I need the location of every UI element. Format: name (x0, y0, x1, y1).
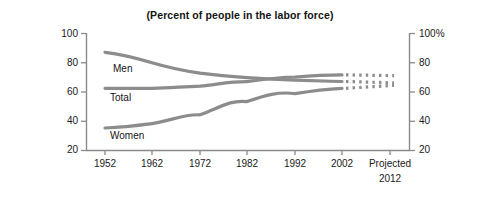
y-axis-left-tick-40: 40 (52, 115, 78, 126)
y-axis-right-tick-80: 80 (419, 57, 453, 68)
series-label-women: Women (110, 130, 144, 141)
chart-figure: (Percent of people in the labor force) (0, 0, 480, 197)
y-axis-left-tick-100: 100 (52, 28, 78, 39)
y-axis-left-tick-20: 20 (52, 144, 78, 155)
y-axis-right-tick-20: 20 (419, 144, 453, 155)
x-axis-tick-projected: Projected (360, 158, 420, 169)
series-label-total: Total (110, 92, 131, 103)
series-women (105, 85, 394, 128)
y-axis-right-tick-60: 60 (419, 86, 453, 97)
y-axis-right-ticks (410, 34, 415, 151)
y-axis-left-ticks (81, 34, 86, 151)
y-axis-left-tick-60: 60 (52, 86, 78, 97)
series-label-men: Men (113, 63, 132, 74)
x-axis-tick-projected-year: 2012 (360, 173, 420, 184)
series-men (105, 52, 394, 83)
y-axis-right-tick-40: 40 (419, 115, 453, 126)
y-axis-left-tick-80: 80 (52, 57, 78, 68)
y-axis-right-tick-100: 100% (419, 28, 453, 39)
